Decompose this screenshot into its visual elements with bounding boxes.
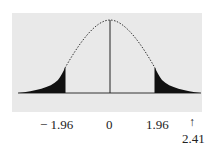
up-arrow-icon: ↑ [189, 116, 195, 128]
left-tail-region [18, 68, 65, 93]
test-statistic-label: 2.41 [182, 132, 205, 145]
right-critical-label: 1.96 [146, 118, 169, 131]
center-label: 0 [106, 118, 113, 131]
right-tail-region [155, 68, 201, 93]
left-critical-label: − 1.96 [40, 118, 73, 131]
